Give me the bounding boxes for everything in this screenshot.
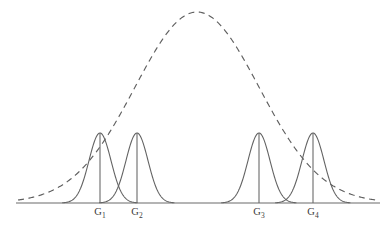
tick-label-g2: G2: [131, 207, 143, 220]
tick-label-subscript: 1: [102, 211, 106, 220]
tick-label-letter: G: [131, 206, 139, 217]
tick-label-g4: G4: [307, 207, 319, 220]
envelope-dashed-gaussian-curve: [18, 12, 377, 200]
tick-label-g3: G3: [253, 207, 265, 220]
tick-label-subscript: 4: [315, 211, 319, 220]
tick-label-letter: G: [94, 206, 102, 217]
tick-label-letter: G: [307, 206, 315, 217]
tick-label-subscript: 2: [139, 211, 143, 220]
tick-label-letter: G: [253, 206, 261, 217]
plot-canvas: [0, 0, 391, 229]
tick-label-subscript: 3: [261, 211, 265, 220]
gaussian-mixture-figure: G1G2G3G4: [0, 0, 391, 229]
envelope-group: [18, 12, 377, 200]
tick-label-g1: G1: [94, 207, 106, 220]
component-gaussians-group: [63, 133, 350, 203]
